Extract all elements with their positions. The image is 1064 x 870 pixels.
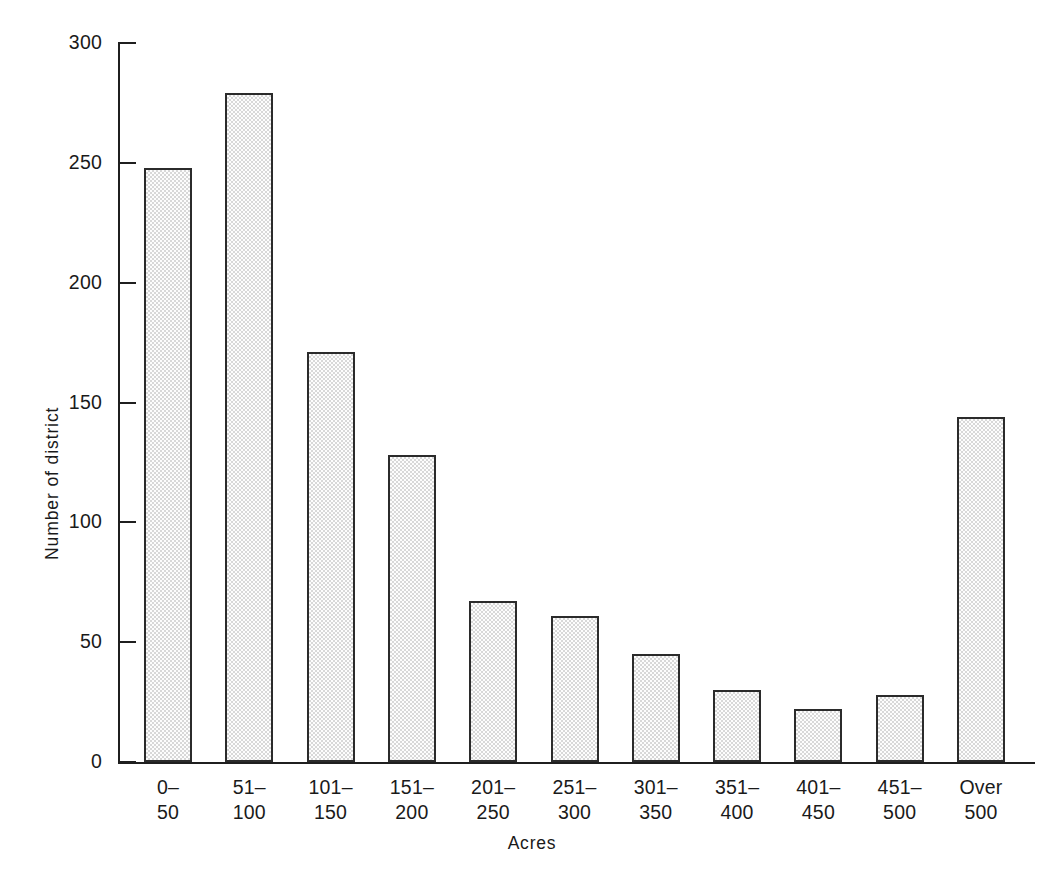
x-axis-tick-label-line2: 500: [926, 800, 1036, 825]
y-axis-tick-label-text: 0: [91, 750, 102, 773]
y-axis-tick-label-text: 250: [69, 151, 102, 174]
y-axis-tick-label-text: 300: [69, 31, 102, 54]
y-axis-tick: [118, 521, 136, 523]
bar: [388, 455, 436, 762]
y-axis-tick-label-text: 150: [69, 391, 102, 414]
y-axis-tick: [118, 162, 136, 164]
y-axis-tick-label-text: 200: [69, 271, 102, 294]
y-axis-title: Number of district: [42, 240, 63, 560]
bar: [225, 93, 273, 762]
bar: [794, 709, 842, 762]
y-axis-tick: [118, 402, 136, 404]
bar: [632, 654, 680, 762]
y-axis-tick-label-text: 50: [80, 630, 102, 653]
y-axis-tick-label-text: 100: [69, 510, 102, 533]
y-axis-tick: [118, 282, 136, 284]
bar: [307, 352, 355, 762]
x-axis-tick-label: Over500: [926, 775, 1036, 825]
x-axis-title: Acres: [0, 833, 1064, 854]
page-scan-artifact: [0, 857, 1064, 870]
y-axis-tick: [118, 641, 136, 643]
bar: [876, 695, 924, 762]
bar: [144, 168, 192, 762]
y-axis-line: [118, 43, 120, 764]
y-axis-tick: [118, 42, 136, 44]
bar: [713, 690, 761, 762]
x-axis-tick-label-line1: Over: [926, 775, 1036, 800]
bar-chart: 050100150200250300 0–5051–100101–150151–…: [0, 0, 1064, 870]
chart-page: 050100150200250300 0–5051–100101–150151–…: [0, 0, 1064, 870]
y-axis-tick: [118, 761, 136, 763]
bar: [551, 616, 599, 762]
bar: [957, 417, 1005, 762]
bar: [469, 601, 517, 762]
x-axis-line: [118, 762, 1035, 764]
